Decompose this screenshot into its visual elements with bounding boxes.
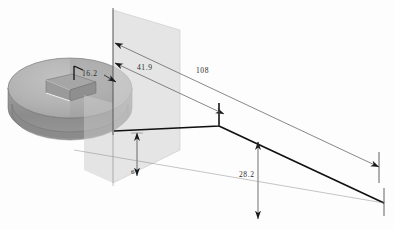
drawing-canvas: 16.2 41.9 108 6 28.2 bbox=[0, 0, 394, 230]
section-plane-face bbox=[113, 10, 180, 183]
section-plane-lower-left bbox=[84, 95, 113, 183]
dimension-label-28-2: 28.2 bbox=[239, 171, 255, 179]
engineering-drawing-svg bbox=[0, 0, 394, 230]
dimension-label-108: 108 bbox=[196, 67, 209, 75]
dimension-label-16-2: 16.2 bbox=[82, 70, 98, 78]
dimension-label-41-9: 41.9 bbox=[137, 64, 153, 72]
dimension-label-6: 6 bbox=[131, 169, 135, 176]
profile-long-diagonal bbox=[219, 126, 384, 203]
